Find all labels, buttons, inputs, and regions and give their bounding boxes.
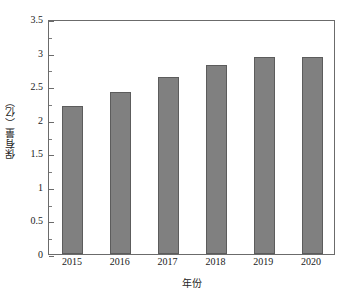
bar: [206, 65, 227, 254]
y-axis-tick-minor: [49, 206, 52, 207]
x-axis-tick-label: 2019: [253, 257, 273, 267]
bar: [158, 77, 179, 254]
y-axis-tick-label: 1.5: [31, 149, 44, 159]
bar: [302, 57, 323, 254]
y-axis-tick-labels: 00.511.522.533.5: [18, 0, 46, 297]
x-axis-tick-label: 2020: [301, 257, 321, 267]
y-axis-tick-major: [49, 222, 54, 223]
bar: [110, 92, 131, 254]
y-axis-tick-minor: [49, 139, 52, 140]
x-axis-title: 年份: [48, 275, 335, 290]
x-axis-tick-label: 2018: [205, 257, 225, 267]
y-axis-tick-major: [49, 155, 54, 156]
bar: [254, 57, 275, 254]
y-axis-tick-major: [49, 122, 54, 123]
x-axis-tick-label: 2016: [110, 257, 130, 267]
y-axis-tick-label: 0.5: [31, 216, 44, 226]
x-axis-tick-label: 2017: [158, 257, 178, 267]
bar-chart-figure: 保有量（亿） 00.511.522.533.5 2015201620172018…: [0, 0, 353, 297]
plot-area: [48, 20, 335, 255]
y-axis-tick-major: [49, 189, 54, 190]
bar: [62, 106, 83, 254]
y-axis-tick-minor: [49, 38, 52, 39]
y-axis-tick-minor: [49, 105, 52, 106]
y-axis-tick-label: 1: [38, 183, 43, 193]
y-axis-tick-label: 2: [38, 116, 43, 126]
y-axis-tick-label: 2.5: [31, 82, 44, 92]
y-axis-tick-label: 3: [38, 49, 43, 59]
y-axis-tick-label: 0: [38, 250, 43, 260]
y-axis-title: 保有量（亿）: [0, 0, 20, 255]
y-axis-tick-minor: [49, 71, 52, 72]
y-axis-tick-major: [49, 21, 54, 22]
y-axis-tick-major: [49, 88, 54, 89]
y-axis-title-label: 保有量（亿）: [3, 96, 18, 159]
y-axis-tick-label: 3.5: [31, 15, 44, 25]
x-axis-tick-labels: 201520162017201820192020: [48, 257, 335, 273]
y-axis-tick-minor: [49, 172, 52, 173]
y-axis-tick-major: [49, 55, 54, 56]
x-axis-tick-label: 2015: [62, 257, 82, 267]
y-axis-tick-minor: [49, 239, 52, 240]
